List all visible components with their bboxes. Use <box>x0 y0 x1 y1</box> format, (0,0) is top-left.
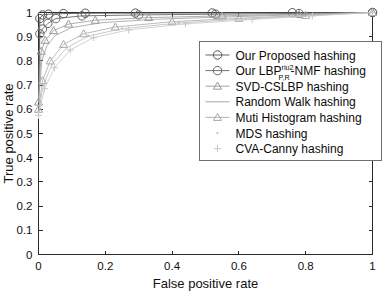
y-tick-label: 0.7 <box>17 79 33 91</box>
x-tick-label: 1 <box>369 260 375 272</box>
y-tick-label: 0 <box>26 249 32 261</box>
x-tick-label: 0.6 <box>231 260 247 272</box>
series-marker-6 <box>249 16 256 23</box>
marker-plus <box>249 16 256 23</box>
series-marker-6 <box>35 112 42 119</box>
y-tick-label: 0.2 <box>17 200 33 212</box>
series-marker-5 <box>121 28 123 30</box>
chart-canvas: 00.10.20.30.40.50.60.70.80.9100.20.40.60… <box>0 0 385 307</box>
marker-dot <box>66 46 68 48</box>
series-marker-5 <box>51 63 53 65</box>
marker-plus <box>369 9 376 16</box>
y-tick-label: 0.9 <box>17 31 33 43</box>
legend-label-3: Random Walk hashing <box>236 95 356 109</box>
x-tick-label: 0.8 <box>298 260 314 272</box>
legend-label-2: SVD-CSLBP hashing <box>236 80 349 94</box>
y-tick-label: 0.5 <box>17 128 33 140</box>
legend-label-0: Our Proposed hashing <box>236 49 356 63</box>
legend-marker <box>216 132 218 134</box>
y-tick-label: 1 <box>26 7 32 19</box>
marker-dot <box>178 22 180 24</box>
y-tick-label: 0.4 <box>17 152 34 164</box>
legend-label-5: MDS hashing <box>236 127 308 141</box>
series-marker-2 <box>50 27 58 34</box>
y-axis-title: True positive rate <box>1 84 16 184</box>
legend-label-6: CVA-Canny hashing <box>236 142 344 156</box>
series-marker-4 <box>60 40 68 47</box>
y-tick-label: 0.1 <box>17 224 33 236</box>
marker-triangle <box>60 40 68 47</box>
series-marker-5 <box>66 46 68 48</box>
series-marker-5 <box>178 22 180 24</box>
marker-dot <box>121 28 123 30</box>
x-tick-label: 0 <box>35 260 41 272</box>
roc-chart-figure: 00.10.20.30.40.50.60.70.80.9100.20.40.60… <box>0 0 385 307</box>
series-marker-5 <box>88 35 90 37</box>
y-tick-label: 0.3 <box>17 176 33 188</box>
series-marker-6 <box>369 9 376 16</box>
marker-dot <box>88 35 90 37</box>
marker-plus <box>35 112 42 119</box>
marker-dot <box>216 132 218 134</box>
marker-dot <box>51 63 53 65</box>
x-axis-title: False positive rate <box>153 276 259 291</box>
x-tick-label: 0.2 <box>97 260 113 272</box>
y-tick-label: 0.6 <box>17 103 33 115</box>
x-tick-label: 0.4 <box>164 260 181 272</box>
legend-label-4: Muti Histogram hashing <box>236 111 362 125</box>
y-tick-label: 0.8 <box>17 55 33 67</box>
marker-triangle <box>50 27 58 34</box>
